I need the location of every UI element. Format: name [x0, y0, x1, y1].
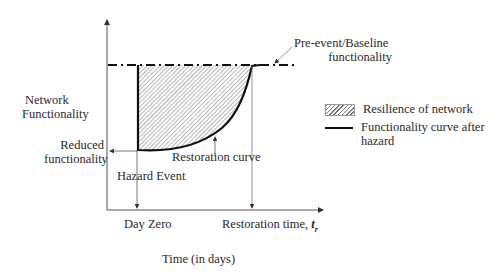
- restoration-time-text: Restoration time,: [222, 217, 311, 231]
- y-axis-label: Network Functionality: [22, 93, 89, 121]
- reduced-label-line1: Reduced: [44, 138, 104, 152]
- reduced-functionality-label: Reduced functionality: [44, 138, 104, 166]
- baseline-label-line2: functionality: [294, 50, 394, 64]
- legend-label-functionality: Functionality curve after hazard: [361, 120, 485, 148]
- y-axis-label-line2: Functionality: [22, 107, 89, 121]
- hazard-event-label: Hazard Event: [117, 169, 185, 183]
- resilience-area: [138, 65, 252, 150]
- reduced-label-line2: functionality: [44, 152, 104, 166]
- legend-item-functionality-curve: Functionality curve after hazard: [325, 120, 485, 148]
- legend-label-functionality-line1: Functionality curve after: [361, 120, 485, 134]
- baseline-label: Pre-event/Baseline functionality: [294, 36, 394, 64]
- line-swatch-icon: [325, 127, 353, 129]
- hatched-swatch-icon: [325, 104, 355, 116]
- baseline-label-line1: Pre-event/Baseline: [294, 36, 394, 50]
- day-zero-label: Day Zero: [124, 217, 172, 231]
- restoration-curve-label: Restoration curve: [172, 150, 261, 164]
- legend-label-functionality-line2: hazard: [361, 134, 485, 148]
- legend-item-resilience: Resilience of network: [325, 102, 473, 116]
- x-axis-label: Time (in days): [162, 252, 235, 266]
- legend-label-resilience: Resilience of network: [363, 102, 473, 116]
- restoration-time-subscript: r: [315, 225, 318, 234]
- y-axis-label-line1: Network: [22, 93, 89, 107]
- restoration-time-label: Restoration time, tr: [222, 217, 318, 237]
- baseline-pointer: [275, 47, 292, 63]
